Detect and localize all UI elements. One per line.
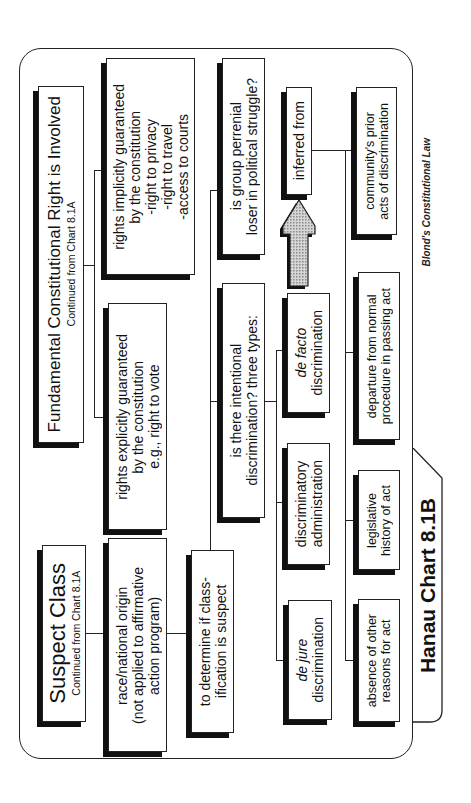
- connector: [265, 401, 276, 402]
- departure-procedure-box: departure from normal procedure in passi…: [358, 272, 400, 440]
- connector: [276, 350, 277, 660]
- connector: [345, 150, 346, 661]
- chart-title: Hanau Chart 8.1B: [414, 455, 442, 717]
- connector: [210, 190, 211, 550]
- perrenial-loser-box: is group perrenial loser in political st…: [222, 58, 265, 255]
- absence-reasons-box: absence of other reasons for act: [358, 599, 400, 722]
- fundamental-right-subtitle: Continued from Chart 8.1A: [65, 96, 77, 432]
- to-determine-box: to determine if class- ification is susp…: [191, 550, 234, 733]
- community-prior-box: community's prior acts of discrimination: [356, 87, 397, 235]
- connector: [86, 633, 108, 634]
- connector: [94, 417, 108, 418]
- suspect-class-box: Suspect Class Continued from Chart 8.1A: [42, 545, 86, 722]
- connector: [345, 520, 358, 521]
- fundamental-right-title: Fundamental Constitutional Right is Invo…: [45, 96, 65, 432]
- arrow-up-icon: [278, 198, 320, 290]
- connector: [276, 350, 287, 351]
- inferred-from-box: inferred from: [286, 87, 312, 195]
- connector: [345, 352, 358, 353]
- rights-implicit-box: rights implicitly guaranteed by the cons…: [106, 58, 195, 275]
- suspect-class-subtitle: Continued from Chart 8.1A: [70, 563, 82, 704]
- connector: [94, 170, 106, 171]
- discriminatory-administration-box: discriminatory administration: [287, 443, 330, 565]
- connector: [210, 190, 222, 191]
- connector: [312, 150, 355, 151]
- rights-explicit-box: rights explicitly guaranteed by the cons…: [108, 303, 167, 530]
- connector: [276, 660, 288, 661]
- connector: [276, 502, 287, 503]
- fundamental-right-box: Fundamental Constitutional Right is Invo…: [38, 86, 84, 443]
- credit-text: Blond's Constitutional Law: [419, 120, 433, 285]
- connector: [167, 633, 190, 634]
- connector: [210, 401, 222, 402]
- de-jure-box: de jure discrimination: [288, 600, 332, 720]
- connector: [84, 265, 94, 266]
- intentional-discrimination-box: is there intentional discrimination? thr…: [222, 283, 265, 518]
- race-origin-box: race/national origin (not applied to aff…: [108, 538, 167, 752]
- connector: [345, 660, 358, 661]
- suspect-class-title: Suspect Class: [46, 563, 70, 704]
- legislative-history-box: legislative history of act: [358, 470, 400, 570]
- connector: [94, 170, 95, 418]
- de-facto-box: de facto discrimination: [287, 293, 330, 413]
